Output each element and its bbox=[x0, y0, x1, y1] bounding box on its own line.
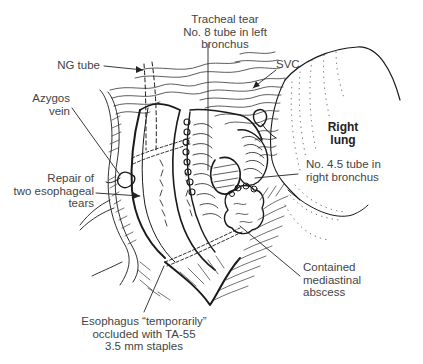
label-right-lung: Right lung bbox=[318, 121, 368, 147]
ng-tube-line-2 bbox=[152, 62, 156, 150]
label-svc: SVC bbox=[276, 58, 300, 71]
left-bronchus-hatching bbox=[213, 164, 238, 188]
branch-lower bbox=[92, 262, 122, 276]
label-right-bronchus-tube: No. 4.5 tube in right bronchus bbox=[306, 158, 381, 183]
lower-left-hatching bbox=[138, 262, 170, 300]
label-abscess: Contained mediastinal abscess bbox=[303, 261, 361, 299]
trachea-left-edge bbox=[187, 112, 215, 252]
arrowhead-svc bbox=[253, 81, 260, 88]
left-bronchus bbox=[211, 157, 241, 194]
svc-loop bbox=[254, 110, 267, 127]
esophagus-left-lip bbox=[142, 108, 175, 262]
esophagus-outline-left bbox=[132, 110, 165, 258]
right-lung-lower-edge bbox=[288, 190, 368, 216]
label-esophagus-occluded: Esophagus “temporarily” occluded with TA… bbox=[76, 315, 212, 353]
suture-line-2 bbox=[186, 160, 192, 216]
suture-line-1 bbox=[160, 160, 167, 226]
esophagus-stump bbox=[165, 258, 240, 305]
label-tracheal-tear: Tracheal tear No. 8 tube in left bronchu… bbox=[170, 13, 280, 51]
leader-lines bbox=[72, 44, 300, 312]
label-esophageal-repair: Repair of two esophageal tears bbox=[10, 172, 94, 210]
leader-abscess bbox=[240, 226, 300, 276]
label-ng-tube: NG tube bbox=[40, 59, 100, 72]
leader-right-bronchus bbox=[255, 174, 298, 178]
leader-azygos bbox=[72, 108, 120, 175]
stump-hatching bbox=[180, 256, 224, 286]
trachea-rings bbox=[193, 124, 221, 218]
abscess-texture bbox=[234, 203, 252, 222]
esophagus-dashed-band bbox=[132, 138, 190, 158]
right-bronchus-rings bbox=[242, 136, 264, 174]
leader-esophagus bbox=[144, 266, 164, 312]
right-lung-inner-edge bbox=[271, 80, 300, 200]
surgical-diagram: Tracheal tear No. 8 tube in left bronchu… bbox=[0, 0, 423, 364]
label-azygos-vein: Azygos vein bbox=[20, 92, 70, 117]
arrowhead-ng-tube bbox=[136, 66, 143, 73]
arrowhead-repair bbox=[133, 192, 140, 199]
right-lung-outline bbox=[285, 47, 400, 100]
